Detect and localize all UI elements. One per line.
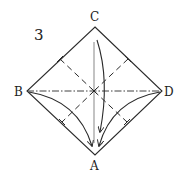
label-b: B [14,85,23,99]
origami-fold-diagram: 3 C B D A [0,0,183,178]
valley-fold-upper-right [94,59,128,91]
arrow-b-to-a-icon [29,92,92,146]
step-number: 3 [34,26,44,44]
valley-fold-lower-right [94,91,127,122]
label-c: C [90,10,99,24]
label-a: A [89,159,99,173]
label-d: D [164,85,174,99]
valley-fold-lower-left [62,91,94,122]
arrow-c-to-a-icon [97,40,104,132]
valley-fold-upper-left [60,59,94,91]
